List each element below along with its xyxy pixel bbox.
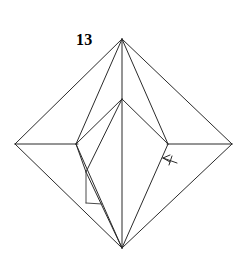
- edge-notch-to-bottom: [86, 172, 122, 248]
- figure-number-label: 13: [76, 30, 93, 50]
- edge-outer-upper-left: [15, 39, 122, 144]
- edge-outer-lower-left: [15, 144, 122, 248]
- edge-notch-horizontal: [86, 203, 102, 204]
- edge-apex-to-inner-left: [76, 39, 122, 144]
- edge-inner-top-to-inner-right: [122, 99, 168, 144]
- edge-inner-right-to-bottom: [122, 144, 168, 248]
- edge-outer-upper-right: [122, 39, 232, 144]
- arrow-marker-icon: [163, 155, 177, 165]
- edge-apex-to-inner-right: [122, 39, 168, 144]
- crystal-figure: 13: [0, 0, 240, 257]
- edge-inner-top-to-inner-left: [76, 99, 122, 144]
- arrow-head-upper: [163, 155, 170, 158]
- edge-outer-lower-right: [122, 144, 232, 248]
- crystal-diagram: [0, 0, 240, 257]
